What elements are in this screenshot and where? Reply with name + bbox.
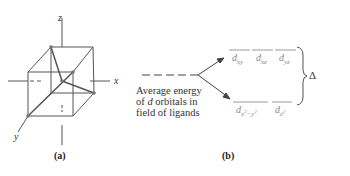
z-axis-label: z (58, 12, 62, 23)
axes (8, 18, 110, 145)
delta-label: Δ (309, 70, 316, 81)
caption-a: (a) (54, 150, 66, 161)
average-energy-label: Average energy of d orbitals in field of… (136, 85, 202, 118)
orbital-dxy: dxy (232, 52, 243, 66)
orbital-dx2-y2: dx2−y2 (236, 104, 257, 118)
average-label-line-2: of d orbitals in (136, 96, 202, 107)
orbital-dz2: dz2 (275, 104, 285, 118)
orbital-dxz: dxz (256, 52, 267, 66)
y-axis-label: y (14, 131, 18, 142)
caption-b: (b) (222, 150, 234, 161)
orbital-dyz: dyz (279, 52, 290, 66)
average-label-line-1: Average energy (136, 85, 202, 96)
average-label-line-3: field of ligands (136, 107, 202, 118)
x-axis-label: x (114, 75, 118, 86)
